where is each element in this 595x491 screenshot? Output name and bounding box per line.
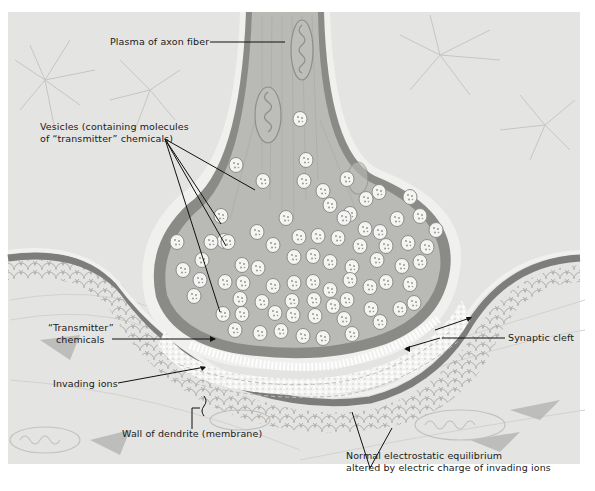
- label-synaptic-cleft: Synaptic cleft: [508, 332, 574, 344]
- label-vesicles-line1: Vesicles (containing molecules: [40, 121, 189, 133]
- label-vesicles-line2: of “transmitter” chemicals): [40, 133, 173, 145]
- label-equilibrium-line2: altered by electric charge of invading i…: [346, 462, 551, 474]
- label-plasma-of-axon-fiber: Plasma of axon fiber: [110, 36, 209, 48]
- label-equilibrium-line1: Normal electrostatic equilibrium: [346, 450, 502, 462]
- label-wall-of-dendrite: Wall of dendrite (membrane): [122, 428, 262, 440]
- synapse-illustration: [0, 0, 595, 491]
- label-transmitter-line1: “Transmitter”: [48, 322, 114, 334]
- synapse-diagram: Plasma of axon fiber Vesicles (containin…: [0, 0, 595, 491]
- label-transmitter-line2: chemicals: [56, 334, 105, 346]
- label-invading-ions: Invading ions: [53, 378, 118, 390]
